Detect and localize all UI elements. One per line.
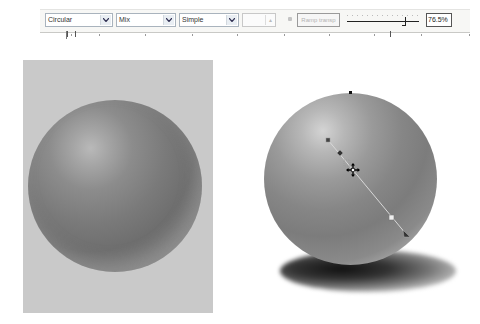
ruler-tick — [374, 34, 375, 36]
transparency-type-dropdown[interactable]: Circular — [45, 13, 113, 27]
node-icon[interactable] — [288, 17, 292, 21]
slider-thumb[interactable] — [402, 17, 406, 26]
interactive-transparency-property-bar: Circular Mix Simple ▴ Ramp transp — [40, 9, 470, 33]
top-node-handle[interactable] — [349, 91, 352, 94]
slider-track — [347, 21, 419, 22]
spinner-arrows-icon[interactable]: ▴ — [265, 15, 274, 25]
style-dropdown[interactable]: Simple — [179, 13, 239, 27]
horizontal-ruler — [66, 31, 471, 39]
canvas-stage: Circular Mix Simple ▴ Ramp transp — [0, 0, 480, 324]
ruler-tick — [145, 34, 146, 36]
end-square-handle[interactable] — [389, 215, 394, 220]
ruler-tick — [192, 34, 193, 36]
shaded-sphere-left[interactable] — [28, 100, 202, 272]
transparency-percent-field[interactable]: 76.5% — [426, 13, 452, 27]
shaded-sphere-right[interactable] — [264, 93, 437, 265]
start-square-handle[interactable] — [326, 138, 330, 142]
blend-mode-dropdown[interactable]: Mix — [116, 13, 176, 27]
ramp-transparency-button[interactable]: Ramp transp — [297, 13, 340, 27]
slider-ticks — [347, 15, 419, 16]
steps-spinner[interactable]: ▴ — [242, 13, 276, 27]
chevron-down-icon[interactable] — [163, 15, 174, 25]
ruler-tick — [421, 34, 422, 36]
ruler-tick — [329, 34, 330, 36]
transparency-midpoint-slider[interactable] — [347, 13, 419, 27]
ruler-tick — [390, 31, 391, 37]
ruler-tick — [469, 34, 470, 36]
gray-background-rectangle[interactable] — [23, 60, 213, 313]
ruler-tick — [75, 31, 76, 37]
ruler-tick — [237, 34, 238, 36]
ruler-tick — [99, 34, 100, 36]
blend-mode-value: Mix — [119, 14, 130, 26]
chevron-down-icon[interactable] — [100, 15, 111, 25]
style-value: Simple — [182, 14, 203, 26]
ruler-tick — [284, 34, 285, 36]
ruler-tick — [71, 34, 72, 36]
chevron-down-icon[interactable] — [226, 15, 237, 25]
ruler-tick — [67, 31, 68, 37]
transparency-type-value: Circular — [48, 14, 72, 26]
